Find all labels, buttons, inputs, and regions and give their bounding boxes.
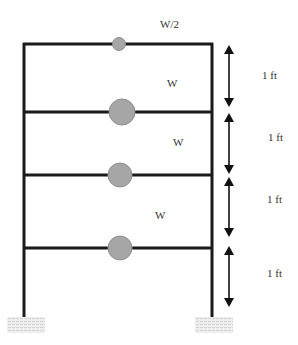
floor-2-mass-circle: [108, 163, 132, 187]
dimension-arrow-story-4: [224, 45, 234, 107]
frame-drawing: [0, 0, 298, 345]
shear-frame-diagram: W/2 W W W 1 ft 1 ft 1 ft 1 ft: [0, 0, 298, 345]
left-ground-support: [7, 317, 45, 333]
dimension-arrow-story-1: [224, 246, 234, 307]
right-ground-support: [195, 317, 233, 333]
roof-mass-label: W/2: [160, 19, 179, 30]
floor-3-mass-circle: [109, 99, 135, 125]
dimension-arrow-story-3: [224, 113, 234, 174]
floor-1-mass-label: W: [155, 210, 165, 221]
floor-2-mass-label: W: [173, 137, 183, 148]
roof-mass-circle: [113, 38, 126, 51]
dimension-arrow-story-2: [224, 177, 234, 237]
story-2-height-label: 1 ft: [267, 194, 282, 205]
story-4-height-label: 1 ft: [262, 70, 277, 81]
story-3-height-label: 1 ft: [268, 132, 283, 143]
floor-1-mass-circle: [108, 236, 132, 260]
floor-3-mass-label: W: [167, 78, 177, 89]
story-1-height-label: 1 ft: [267, 268, 282, 279]
